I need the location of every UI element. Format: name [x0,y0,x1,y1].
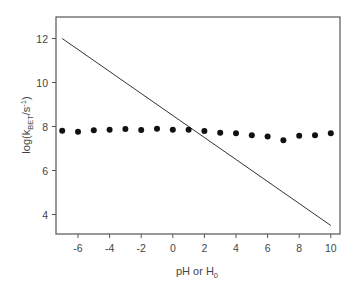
data-point [265,134,271,140]
data-point [249,132,255,138]
data-point [233,130,239,136]
x-tick-label: -4 [105,242,114,254]
y-axis-ticks: 4681012 [36,33,56,221]
x-axis-ticks: -6-4-20246810 [73,234,336,254]
x-tick-label: 2 [201,242,207,254]
data-point [75,129,81,135]
data-point [328,130,334,136]
data-points [59,126,334,144]
y-tick-label: 8 [42,121,48,133]
data-point [170,127,176,133]
x-tick-label: -6 [73,242,82,254]
data-point [312,132,318,138]
x-tick-label: 0 [170,242,176,254]
fit-line [62,39,331,226]
y-tick-label: 10 [36,77,48,89]
fit-line-segment [62,39,331,226]
data-point [217,130,223,136]
x-tick-label: -2 [137,242,146,254]
y-tick-label: 12 [36,33,48,45]
data-point [138,127,144,133]
data-point [122,126,128,132]
data-point [280,137,286,143]
data-point [107,127,113,133]
chart: -6-4-20246810 4681012 pH or H0 log(kBET/… [0,0,358,288]
data-point [201,128,207,134]
y-tick-label: 4 [42,209,48,221]
data-point [154,126,160,132]
x-tick-label: 4 [233,242,239,254]
x-tick-label: 8 [296,242,302,254]
y-tick-label: 6 [42,165,48,177]
y-axis-title: log(kBET/s-1) [19,96,35,153]
x-axis-title: pH or H0 [176,265,218,280]
data-point [59,128,65,134]
data-point [296,133,302,139]
x-tick-label: 6 [265,242,271,254]
plot-frame [56,17,340,234]
x-tick-label: 10 [325,242,337,254]
data-point [91,127,97,133]
data-point [186,127,192,133]
